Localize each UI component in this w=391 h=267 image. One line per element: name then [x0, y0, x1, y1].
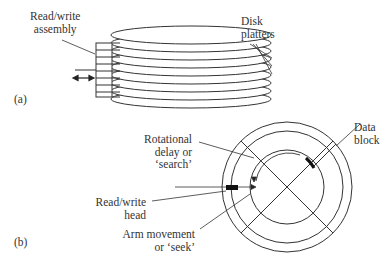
label-line: Disk [241, 15, 275, 28]
panel-b-tag: (b) [14, 236, 27, 249]
label-line: block [354, 134, 380, 147]
arm-movement-label: Arm movement or ‘seek’ [110, 228, 195, 253]
read-write-head-label: Read/write head [80, 196, 146, 221]
label-line: Read/write [80, 196, 146, 209]
double-arrow-icon [73, 76, 94, 81]
label-line: delay or [130, 146, 192, 159]
read-write-assembly-label: Read/write assembly [30, 10, 80, 35]
data-block-label: Data block [354, 121, 380, 146]
label-line: Rotational [130, 133, 192, 146]
label-line: assembly [30, 23, 80, 36]
label-line: head [80, 209, 146, 222]
label-line: Arm movement [110, 228, 195, 241]
rotational-delay-label: Rotational delay or ‘search’ [130, 133, 192, 171]
read-write-head [226, 185, 238, 190]
disk-diagram [0, 0, 391, 267]
label-line: Data [354, 121, 380, 134]
panel-a-tag: (a) [14, 93, 27, 106]
label-line: ‘search’ [130, 158, 192, 171]
disk-platters-label: Disk platters [241, 15, 275, 40]
label-line: platters [241, 28, 275, 41]
label-line: or ‘seek’ [110, 241, 195, 254]
label-line: Read/write [30, 10, 80, 23]
head-arm [175, 177, 257, 190]
